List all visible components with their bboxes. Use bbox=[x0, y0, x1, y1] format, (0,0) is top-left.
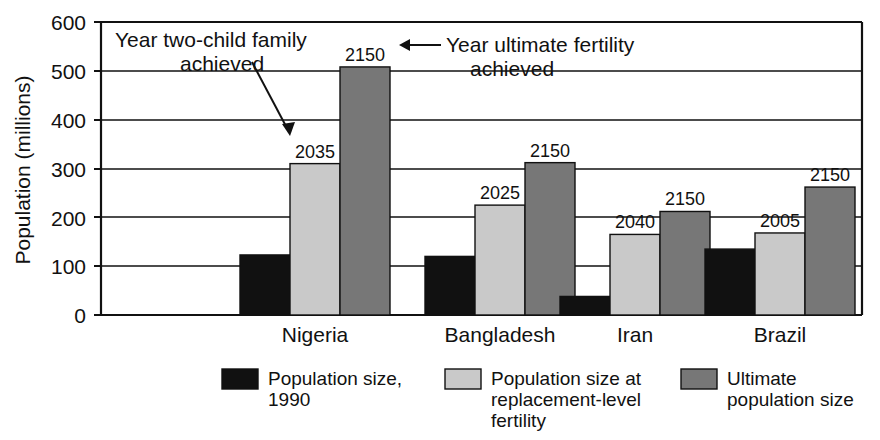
bar-group-bangladesh: 2025 2150 bbox=[425, 141, 575, 315]
bar-iran-population-1990[interactable] bbox=[560, 296, 610, 315]
annotation-ultimate-line2: achieved bbox=[470, 57, 554, 80]
bar-label-iran-ultimate: 2150 bbox=[665, 189, 705, 209]
legend-item-ultimate-population[interactable]: Ultimate population size bbox=[681, 368, 854, 410]
bar-brazil-ultimate-population[interactable] bbox=[805, 187, 855, 315]
legend-swatch-replacement-fertility bbox=[445, 369, 481, 389]
y-tick-400: 400 bbox=[51, 109, 86, 132]
legend-label-population-1990-line2: 1990 bbox=[268, 389, 310, 410]
annotation-ultimate-arrowhead-icon bbox=[399, 39, 410, 51]
bar-label-brazil-ultimate: 2150 bbox=[810, 165, 850, 185]
bar-brazil-population-1990[interactable] bbox=[705, 249, 755, 315]
legend-item-population-1990[interactable]: Population size, 1990 bbox=[222, 368, 402, 410]
bar-bangladesh-ultimate-population[interactable] bbox=[525, 163, 575, 315]
bar-iran-replacement-fertility[interactable] bbox=[610, 234, 660, 315]
y-axis-title-text: Population (millions) bbox=[11, 75, 34, 264]
y-tick-100: 100 bbox=[51, 255, 86, 278]
bar-group-nigeria: 2035 2150 bbox=[240, 45, 390, 315]
population-bar-chart: Population (millions) 600 500 400 300 20… bbox=[0, 0, 880, 440]
bar-brazil-replacement-fertility[interactable] bbox=[755, 233, 805, 315]
legend-item-replacement-fertility[interactable]: Population size at replacement-level fer… bbox=[445, 368, 642, 431]
bar-iran-ultimate-population[interactable] bbox=[660, 211, 710, 315]
legend-swatch-population-1990 bbox=[222, 369, 258, 389]
legend-label-population-1990-line1: Population size, bbox=[268, 368, 402, 389]
annotation-ultimate-line1: Year ultimate fertility bbox=[446, 33, 635, 56]
x-tick-iran: Iran bbox=[617, 323, 653, 346]
bar-nigeria-replacement-fertility[interactable] bbox=[290, 164, 340, 315]
x-tick-nigeria: Nigeria bbox=[282, 323, 349, 346]
y-tick-0: 0 bbox=[74, 304, 86, 327]
bar-label-nigeria-ultimate: 2150 bbox=[345, 45, 385, 65]
x-tick-bangladesh: Bangladesh bbox=[445, 323, 556, 346]
x-tick-brazil: Brazil bbox=[754, 323, 807, 346]
bar-group-iran: 2040 2150 bbox=[560, 189, 710, 315]
legend-label-replacement-line3: fertility bbox=[491, 410, 546, 431]
bar-label-nigeria-replacement: 2035 bbox=[295, 142, 335, 162]
legend-label-ultimate-line1: Ultimate bbox=[727, 368, 797, 389]
legend-label-replacement-line1: Population size at bbox=[491, 368, 642, 389]
bar-nigeria-ultimate-population[interactable] bbox=[340, 67, 390, 315]
legend-label-ultimate-line2: population size bbox=[727, 389, 854, 410]
bar-label-bangladesh-replacement: 2025 bbox=[480, 183, 520, 203]
y-tick-600: 600 bbox=[51, 11, 86, 34]
bar-label-brazil-replacement: 2005 bbox=[760, 211, 800, 231]
bar-label-iran-replacement: 2040 bbox=[615, 212, 655, 232]
bar-group-brazil: 2005 2150 bbox=[705, 165, 855, 315]
chart-legend: Population size, 1990 Population size at… bbox=[222, 368, 854, 431]
annotation-two-child-arrowhead-icon bbox=[282, 122, 295, 136]
annotation-two-child-line1: Year two-child family bbox=[115, 28, 307, 51]
y-tick-200: 200 bbox=[51, 207, 86, 230]
legend-swatch-ultimate-population bbox=[681, 369, 717, 389]
bar-nigeria-population-1990[interactable] bbox=[240, 255, 290, 315]
y-axis-tick-labels: 600 500 400 300 200 100 0 bbox=[51, 11, 86, 327]
annotation-ultimate-fertility: Year ultimate fertility achieved bbox=[399, 33, 635, 80]
x-axis-tick-labels: Nigeria Bangladesh Iran Brazil bbox=[282, 323, 807, 346]
bar-label-bangladesh-ultimate: 2150 bbox=[530, 141, 570, 161]
bar-bangladesh-population-1990[interactable] bbox=[425, 256, 475, 315]
y-tick-500: 500 bbox=[51, 60, 86, 83]
bar-bangladesh-replacement-fertility[interactable] bbox=[475, 205, 525, 315]
y-tick-300: 300 bbox=[51, 158, 86, 181]
y-axis-title: Population (millions) bbox=[11, 75, 34, 264]
chart-canvas: Population (millions) 600 500 400 300 20… bbox=[0, 0, 880, 440]
annotation-two-child-line2: achieved bbox=[180, 52, 264, 75]
legend-label-replacement-line2: replacement-level bbox=[491, 389, 641, 410]
